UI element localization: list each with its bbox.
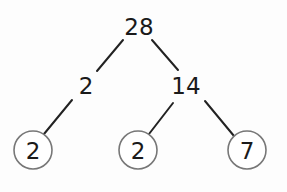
factor-tree-diagram: 28 2 14 2 2 7 xyxy=(0,0,287,192)
edge-14-to-leaf-2 xyxy=(149,103,173,134)
edge-14-to-leaf-7 xyxy=(205,101,234,136)
leaf-prime-2a: 2 xyxy=(26,138,41,164)
leaf-prime-2b: 2 xyxy=(131,138,146,164)
factor-tree-canvas: 28 2 14 2 2 7 xyxy=(0,0,287,192)
root-node: 28 xyxy=(124,14,153,40)
edge-28-to-2 xyxy=(97,40,123,71)
node-factor-2: 2 xyxy=(79,73,94,99)
node-factor-14: 14 xyxy=(171,73,200,99)
edge-28-to-14 xyxy=(152,40,178,70)
leaf-prime-7: 7 xyxy=(240,138,255,164)
edge-2-to-leaf-2 xyxy=(44,100,72,134)
